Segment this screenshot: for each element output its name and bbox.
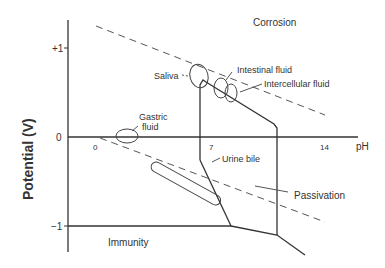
x-axis-label: pH [356, 141, 369, 152]
x-tick-label-7: 7 [209, 143, 214, 152]
intercellular-label: Intercellular fluid [264, 79, 330, 89]
gastric-label-line2: fluid [142, 122, 159, 132]
x-tick-label-14: 14 [320, 143, 329, 152]
saliva-leader [182, 75, 188, 76]
urine-bile-leader [212, 158, 220, 162]
y-tick-label-0: 0 [56, 132, 62, 143]
gastric-label-line1: Gastric [139, 112, 168, 122]
immunity-label: Immunity [108, 237, 149, 248]
pourbaix-diagram: Potential (V) +1 0 −1 0 7 14 pH Corrosio… [0, 0, 385, 268]
saliva-label: Saliva [154, 71, 179, 81]
gastric-leader [132, 126, 138, 131]
intestinal-label: Intestinal fluid [237, 65, 292, 75]
y-axis-label: Potential (V) [20, 118, 36, 200]
corrosion-label: Corrosion [253, 17, 296, 28]
urine-bile-label: Urine bile [222, 154, 260, 164]
y-tick-label-minus1: −1 [51, 221, 63, 232]
x-tick-label-0: 0 [93, 143, 98, 152]
passivation-left-boundary [200, 80, 206, 160]
passivation-label: Passivation [294, 190, 345, 201]
gastric-ellipse [116, 129, 138, 143]
intercellular-leader [240, 84, 262, 92]
passivation-leader [255, 186, 288, 192]
immunity-lower-boundary [231, 226, 305, 255]
y-tick-label-plus1: +1 [52, 43, 64, 54]
passivation-lower-left-boundary [200, 160, 231, 226]
